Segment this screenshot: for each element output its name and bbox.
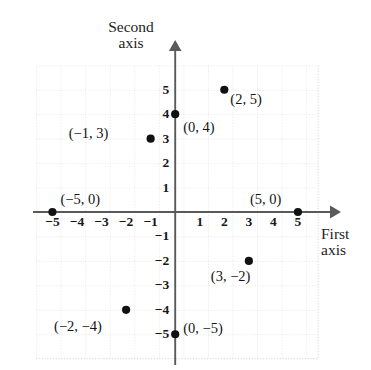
x-tick-label: 5: [286, 214, 310, 230]
x-axis-title-line2: axis: [321, 242, 371, 258]
y-tick-label: 5: [147, 82, 169, 98]
x-axis-arrowhead: [330, 206, 341, 219]
x-axis-title: First axis: [321, 226, 371, 258]
x-tick-label: −5: [40, 214, 64, 230]
x-tick-label: 2: [212, 214, 236, 230]
data-point-label: (−2, −4): [54, 318, 102, 335]
data-point: [171, 330, 179, 338]
x-tick-label: 1: [188, 214, 212, 230]
x-tick-label: −3: [90, 214, 114, 230]
data-point: [220, 86, 228, 94]
y-tick-label: −3: [147, 277, 169, 293]
data-point-label: (5, 0): [250, 191, 281, 208]
data-point-label: (0, 4): [183, 119, 214, 136]
data-point-label: (0, −5): [183, 320, 223, 337]
y-tick-label: 1: [147, 180, 169, 196]
x-tick-label: 3: [237, 214, 261, 230]
x-tick-label: −2: [114, 214, 138, 230]
y-tick-label: −1: [147, 228, 169, 244]
data-point-label: (3, −2): [211, 268, 251, 285]
x-tick-label: 4: [261, 214, 285, 230]
data-point: [245, 257, 253, 265]
y-axis-arrowhead: [169, 40, 182, 51]
x-tick-label: −4: [65, 214, 89, 230]
data-point: [171, 110, 179, 118]
y-axis-title: Second axis: [96, 19, 166, 51]
y-tick-label: 4: [147, 106, 169, 122]
data-point: [122, 306, 130, 314]
coordinate-plane-figure: [0, 0, 371, 370]
y-tick-label: −4: [147, 302, 169, 318]
y-tick-label: −5: [147, 326, 169, 342]
y-axis-title-line2: axis: [96, 35, 166, 51]
y-tick-label: −2: [147, 253, 169, 269]
y-tick-label: 3: [147, 131, 169, 147]
y-tick-label: 2: [147, 155, 169, 171]
x-axis-title-line1: First: [321, 226, 371, 242]
data-point-label: (−1, 3): [69, 125, 109, 142]
y-axis-title-line1: Second: [96, 19, 166, 35]
data-point-label: (−5, 0): [60, 191, 100, 208]
data-point-label: (2, 5): [230, 91, 261, 108]
